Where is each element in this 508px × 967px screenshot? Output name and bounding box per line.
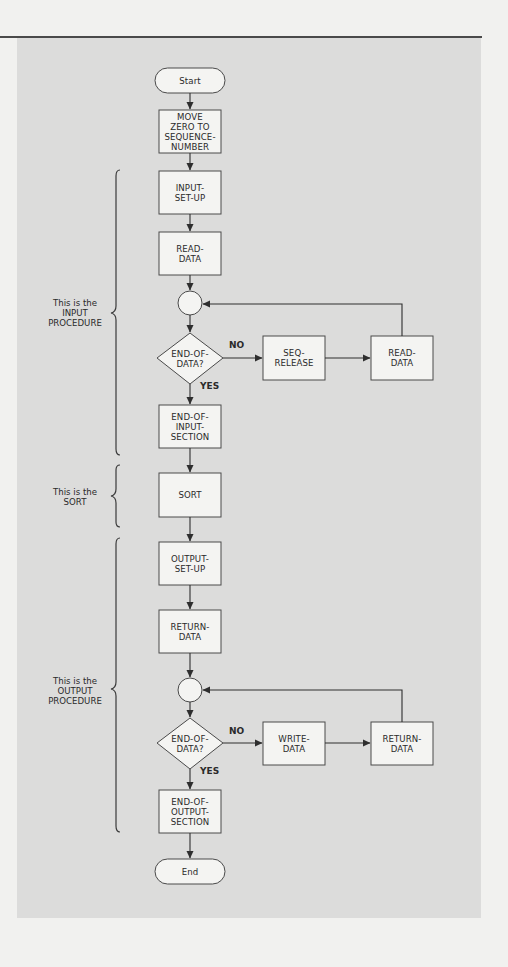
end-of-output-section-label: END-OF- OUTPUT- SECTION	[159, 790, 221, 833]
sort-label: SORT	[159, 473, 221, 517]
return-data-label-1: RETURN- DATA	[159, 610, 221, 653]
start-label: Start	[155, 68, 225, 93]
return-data-label-2: RETURN- DATA	[371, 722, 433, 765]
yes-label-2: YES	[200, 766, 219, 776]
input-set-up-label: INPUT- SET-UP	[159, 171, 221, 214]
end-label: End	[155, 859, 225, 884]
no-label-2: NO	[229, 726, 244, 736]
output-set-up-label: OUTPUT- SET-UP	[159, 542, 221, 585]
yes-label-1: YES	[200, 381, 219, 391]
no-label-1: NO	[229, 340, 244, 350]
read-data-label-2: READ- DATA	[371, 336, 433, 380]
end-of-input-section-label: END-OF- INPUT- SECTION	[159, 405, 221, 448]
connector-circle-2	[178, 678, 202, 702]
move-zero-label: MOVE ZERO TO SEQUENCE- NUMBER	[159, 110, 221, 153]
read-data-label-1: READ- DATA	[159, 232, 221, 275]
write-data-label: WRITE- DATA	[263, 722, 325, 765]
loop-back-arrow-1	[203, 304, 402, 336]
brace-sort	[111, 465, 120, 527]
decision-label-2: END-OF- DATA?	[157, 718, 223, 769]
decision-label-1: END-OF- DATA?	[157, 333, 223, 384]
brace-label-sort: This is the SORT	[40, 487, 110, 507]
brace-label-input: This is the INPUT PROCEDURE	[40, 298, 110, 328]
brace-output-procedure	[111, 538, 120, 832]
connector-circle-1	[178, 291, 202, 315]
brace-input-procedure	[111, 170, 120, 455]
loop-back-arrow-2	[203, 690, 402, 722]
brace-label-output: This is the OUTPUT PROCEDURE	[40, 676, 110, 706]
flowchart-shapes	[0, 0, 508, 967]
seq-release-label: SEQ- RELEASE	[263, 336, 325, 380]
